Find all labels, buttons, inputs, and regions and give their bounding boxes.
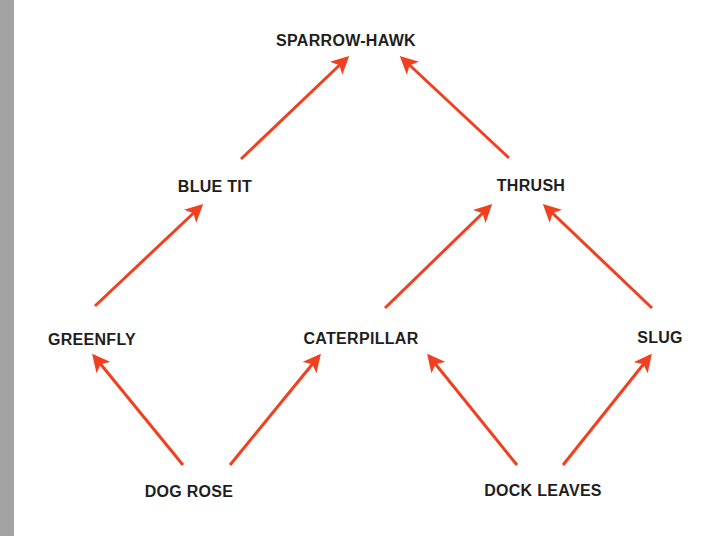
arrow-bluetit-to-sparrowhawk [241,58,347,159]
arrow-dockleaves-to-slug [563,356,650,465]
arrow-dogrose-to-caterpillar [230,356,319,465]
arrow-thrush-to-sparrowhawk [402,58,509,158]
food-web-diagram: SPARROW-HAWKBLUE TITTHRUSHGREENFLYCATERP… [0,0,725,536]
arrow-dockleaves-to-caterpillar [429,356,517,465]
node-caterpillar: CATERPILLAR [304,330,419,348]
node-sparrowhawk: SPARROW-HAWK [276,32,416,50]
arrow-greenfly-to-bluetit [95,206,201,306]
arrow-caterpillar-to-thrush [385,206,490,308]
node-greenfly: GREENFLY [48,331,136,349]
node-thrush: THRUSH [497,177,565,195]
arrow-dogrose-to-greenfly [94,356,183,465]
arrows-layer [0,0,725,536]
node-slug: SLUG [637,329,683,347]
node-dogrose: DOG ROSE [145,483,234,501]
node-dockleaves: DOCK LEAVES [484,482,602,500]
arrow-slug-to-thrush [545,206,652,308]
node-bluetit: BLUE TIT [178,178,252,196]
